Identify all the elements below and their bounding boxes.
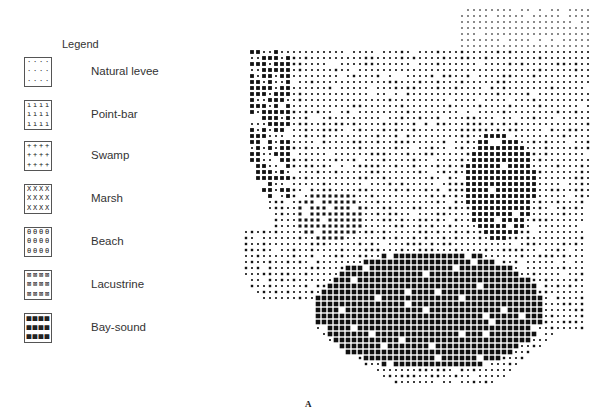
figure-caption: A [305, 399, 312, 409]
environment-grid-map [0, 0, 613, 416]
